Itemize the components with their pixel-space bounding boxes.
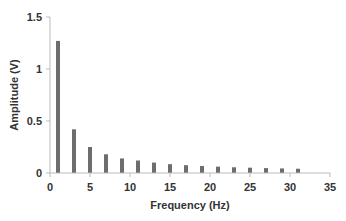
bar: [120, 158, 124, 173]
x-tick-label: 35: [324, 181, 336, 193]
bar: [152, 163, 156, 173]
bar: [264, 168, 268, 173]
bars: [56, 41, 300, 173]
x-axis-label: Frequency (Hz): [150, 199, 230, 211]
bar: [248, 168, 252, 173]
bar: [88, 147, 92, 173]
x-tick-label: 15: [164, 181, 176, 193]
bar: [200, 166, 204, 173]
bar: [104, 154, 108, 173]
amplitude-spectrum-chart: 00.511.5 05101520253035 Frequency (Hz) A…: [0, 0, 346, 221]
x-ticks: 05101520253035: [47, 173, 336, 193]
x-tick-label: 20: [204, 181, 216, 193]
bar: [136, 161, 140, 173]
y-tick-label: 1: [36, 63, 42, 75]
x-tick-label: 0: [47, 181, 53, 193]
x-tick-label: 25: [244, 181, 256, 193]
x-tick-label: 30: [284, 181, 296, 193]
bar: [232, 167, 236, 173]
bar: [56, 41, 60, 173]
bar: [296, 169, 300, 173]
y-tick-label: 0: [36, 167, 42, 179]
bar: [280, 168, 284, 173]
y-tick-label: 0.5: [27, 115, 42, 127]
bar: [184, 165, 188, 173]
x-tick-label: 5: [87, 181, 93, 193]
y-axis-label: Amplitude (V): [8, 59, 20, 131]
bar: [72, 129, 76, 173]
y-ticks: 00.511.5: [27, 11, 50, 179]
y-tick-label: 1.5: [27, 11, 42, 23]
x-tick-label: 10: [124, 181, 136, 193]
bar: [216, 167, 220, 173]
bar: [168, 164, 172, 173]
